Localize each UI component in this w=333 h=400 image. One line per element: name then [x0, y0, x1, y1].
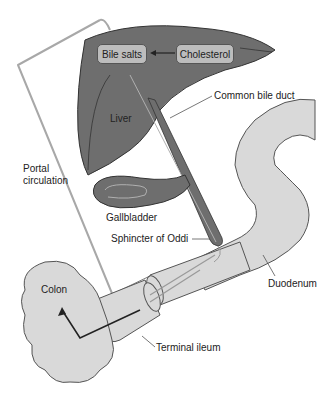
bile-salts-box: Bile salts [97, 44, 147, 64]
sphincter-of-oddi-label: Sphincter of Oddi [111, 233, 188, 245]
portal-circulation-label: Portal circulation [23, 163, 83, 187]
colon-label: Colon [41, 284, 67, 296]
terminal-ileum-label: Terminal ileum [156, 342, 220, 354]
gallbladder-label: Gallbladder [106, 212, 157, 224]
liver-label: Liver [110, 113, 132, 125]
common-bile-duct-label: Common bile duct [214, 90, 295, 102]
gallbladder-shape [93, 175, 190, 208]
colon-shape [22, 261, 114, 382]
cholesterol-label: Cholesterol [180, 49, 231, 60]
common-bile-duct-shape [148, 98, 223, 246]
bile-salts-label: Bile salts [102, 49, 142, 60]
diagram-canvas [0, 0, 333, 400]
cholesterol-box: Cholesterol [176, 44, 234, 64]
duodenum-label: Duodenum [268, 278, 317, 290]
